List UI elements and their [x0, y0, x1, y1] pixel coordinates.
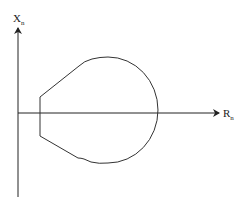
relay-characteristic-curve	[40, 57, 158, 163]
y-axis-label: Xn	[13, 12, 25, 27]
x-axis-label: Rn	[223, 107, 234, 122]
impedance-diagram: Xn Rn	[0, 0, 244, 207]
